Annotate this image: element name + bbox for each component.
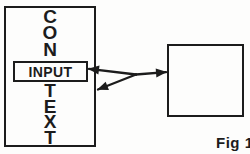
context-word-top: C O N (6, 9, 94, 58)
arrow-to-target-box (136, 72, 166, 74)
context-word-bottom: T E X T (6, 83, 94, 146)
context-letter: T (6, 130, 94, 146)
target-box (167, 44, 244, 117)
figure-caption: Fig 1 (216, 134, 250, 151)
figure-canvas: C O N T E X T INPUT Fig 1 (0, 0, 250, 154)
context-letter: N (6, 42, 94, 58)
input-box-label: INPUT (29, 64, 73, 80)
arrow-to-context-border (98, 75, 136, 90)
input-box: INPUT (13, 61, 88, 82)
arrow-to-input (89, 69, 136, 75)
